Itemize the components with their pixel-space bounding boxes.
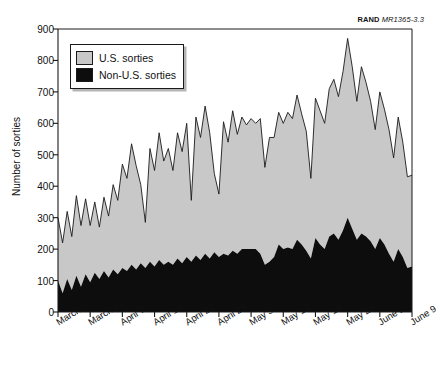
x-tick-label: April 14 (151, 301, 184, 327)
x-tick-label: May 26 (344, 301, 376, 327)
legend-swatch-us-sorties (76, 51, 93, 65)
legend-item-non-us: Non-U.S. sorties (76, 66, 176, 83)
x-tick-label: June 9 (408, 303, 438, 327)
legend-item-us: U.S. sorties (76, 49, 176, 66)
chart-legend: U.S. sorties Non-U.S. sorties (70, 44, 184, 89)
x-tick-label: May 12 (279, 301, 311, 327)
x-tick-label: April 21 (183, 301, 216, 327)
x-tick-label: April 28 (215, 301, 248, 327)
x-tick-label: May 5 (247, 304, 275, 327)
legend-swatch-non-us-sorties (76, 68, 93, 82)
legend-label-non-us-sorties: Non-U.S. sorties (99, 69, 176, 81)
x-tick-label: March 24 (54, 297, 93, 327)
legend-label-us-sorties: U.S. sorties (99, 52, 153, 64)
x-tick-label: June 2 (376, 303, 406, 327)
x-tick-label: March 31 (86, 297, 125, 327)
x-tick-label: May 19 (311, 301, 343, 327)
